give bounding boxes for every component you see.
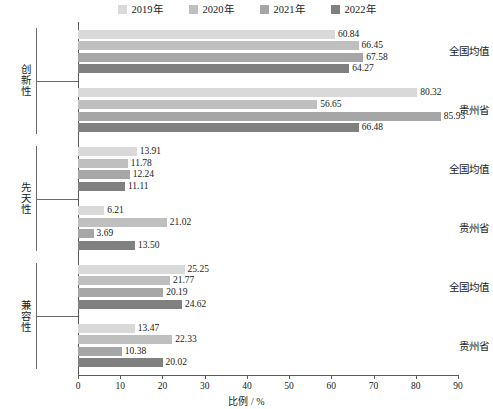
bar-兼容性-全国均值-2019年 xyxy=(78,265,185,274)
y-subgroup-label: 贵州省 xyxy=(459,222,489,233)
y-subgroup-label: 贵州省 xyxy=(459,340,489,351)
bar-value-label: 22.33 xyxy=(175,334,196,344)
bar-先天性-贵州省-2019年 xyxy=(78,206,104,215)
x-tick-label: 0 xyxy=(76,381,81,391)
legend-item-2019年: 2019年 xyxy=(118,4,163,15)
bar-兼容性-贵州省-2022年 xyxy=(78,358,163,367)
legend-label: 2019年 xyxy=(132,4,163,15)
x-tick-label: 10 xyxy=(115,381,125,391)
legend-swatch-icon xyxy=(331,5,340,14)
bar-先天性-全国均值-2019年 xyxy=(78,147,137,156)
x-tick-mark xyxy=(162,375,163,379)
bar-value-label: 66.48 xyxy=(362,122,383,132)
x-tick-mark xyxy=(78,375,79,379)
bar-创新性-贵州省-2020年 xyxy=(78,100,317,109)
bar-value-label: 13.47 xyxy=(138,323,159,333)
bar-value-label: 21.77 xyxy=(173,275,194,285)
bar-先天性-全国均值-2022年 xyxy=(78,182,125,191)
y-group-label-兼容性: 兼容性 xyxy=(14,257,36,375)
legend-label: 2021年 xyxy=(274,4,305,15)
bar-value-label: 67.58 xyxy=(366,52,387,62)
legend-swatch-icon xyxy=(260,5,269,14)
bar-value-label: 6.21 xyxy=(107,205,124,215)
bar-创新性-全国均值-2021年 xyxy=(78,53,363,62)
y-subgroup-separator xyxy=(36,199,78,200)
bar-创新性-贵州省-2021年 xyxy=(78,112,441,121)
x-tick-mark xyxy=(205,375,206,379)
bar-兼容性-贵州省-2019年 xyxy=(78,324,135,333)
bar-先天性-全国均值-2021年 xyxy=(78,170,130,179)
y-group-label-创新性: 创新性 xyxy=(14,22,36,140)
bar-value-label: 24.62 xyxy=(185,299,206,309)
bar-value-label: 64.27 xyxy=(352,63,373,73)
x-tick-label: 60 xyxy=(327,381,337,391)
bar-value-label: 10.38 xyxy=(125,346,146,356)
y-group-label-text: 先天性 xyxy=(20,182,31,215)
legend-label: 2022年 xyxy=(345,4,376,15)
bar-value-label: 85.93 xyxy=(444,111,465,121)
x-tick-label: 70 xyxy=(369,381,379,391)
x-tick-label: 40 xyxy=(242,381,252,391)
bar-value-label: 66.45 xyxy=(362,40,383,50)
bar-value-label: 12.24 xyxy=(133,169,154,179)
bar-兼容性-全国均值-2021年 xyxy=(78,288,163,297)
bar-value-label: 20.02 xyxy=(166,357,187,367)
x-tick-mark xyxy=(458,375,459,379)
y-subgroup-separator xyxy=(36,316,78,317)
legend-swatch-icon xyxy=(189,5,198,14)
bar-value-label: 11.11 xyxy=(128,181,149,191)
x-axis-line xyxy=(78,375,458,376)
bar-value-label: 56.65 xyxy=(320,99,341,109)
x-tick-label: 90 xyxy=(453,381,463,391)
x-tick-mark xyxy=(416,375,417,379)
chart-legend: 2019年2020年2021年2022年 xyxy=(0,4,493,15)
bar-value-label: 21.02 xyxy=(170,217,191,227)
bar-兼容性-全国均值-2022年 xyxy=(78,300,182,309)
legend-item-2020年: 2020年 xyxy=(189,4,234,15)
bar-value-label: 25.25 xyxy=(188,264,209,274)
legend-item-2022年: 2022年 xyxy=(331,4,376,15)
y-group-label-text: 兼容性 xyxy=(20,300,31,333)
y-group-label-先天性: 先天性 xyxy=(14,140,36,258)
x-tick-label: 50 xyxy=(284,381,294,391)
bar-先天性-贵州省-2020年 xyxy=(78,218,167,227)
x-tick-mark xyxy=(374,375,375,379)
legend-item-2021年: 2021年 xyxy=(260,4,305,15)
legend-label: 2020年 xyxy=(203,4,234,15)
bar-先天性-贵州省-2021年 xyxy=(78,229,94,238)
x-tick-mark xyxy=(289,375,290,379)
bar-value-label: 13.91 xyxy=(140,146,161,156)
legend-swatch-icon xyxy=(118,5,127,14)
y-subgroup-separator xyxy=(36,81,78,82)
x-tick-mark xyxy=(247,375,248,379)
bar-先天性-贵州省-2022年 xyxy=(78,241,135,250)
x-tick-mark xyxy=(331,375,332,379)
plot-area: 60.8466.4567.5864.2780.3256.6585.9366.48… xyxy=(78,22,458,375)
bar-创新性-全国均值-2019年 xyxy=(78,30,335,39)
bar-value-label: 3.69 xyxy=(97,228,114,238)
x-tick-label: 80 xyxy=(411,381,421,391)
bar-value-label: 11.78 xyxy=(131,158,152,168)
bar-chart: 2019年2020年2021年2022年 0102030405060708090… xyxy=(0,0,493,409)
bar-先天性-全国均值-2020年 xyxy=(78,159,128,168)
bar-兼容性-全国均值-2020年 xyxy=(78,276,170,285)
bar-创新性-贵州省-2022年 xyxy=(78,123,359,132)
x-tick-label: 30 xyxy=(200,381,210,391)
x-tick-mark xyxy=(120,375,121,379)
x-tick-label: 20 xyxy=(158,381,168,391)
bar-兼容性-贵州省-2021年 xyxy=(78,347,122,356)
bar-创新性-全国均值-2020年 xyxy=(78,41,359,50)
y-group-label-text: 创新性 xyxy=(20,64,31,97)
bar-value-label: 13.50 xyxy=(138,240,159,250)
x-axis-title: 比例 / % xyxy=(0,393,493,408)
bar-value-label: 80.32 xyxy=(420,87,441,97)
bar-创新性-贵州省-2019年 xyxy=(78,88,417,97)
bar-兼容性-贵州省-2020年 xyxy=(78,335,172,344)
bar-value-label: 20.19 xyxy=(166,287,187,297)
bar-创新性-全国均值-2022年 xyxy=(78,64,349,73)
bar-value-label: 60.84 xyxy=(338,29,359,39)
